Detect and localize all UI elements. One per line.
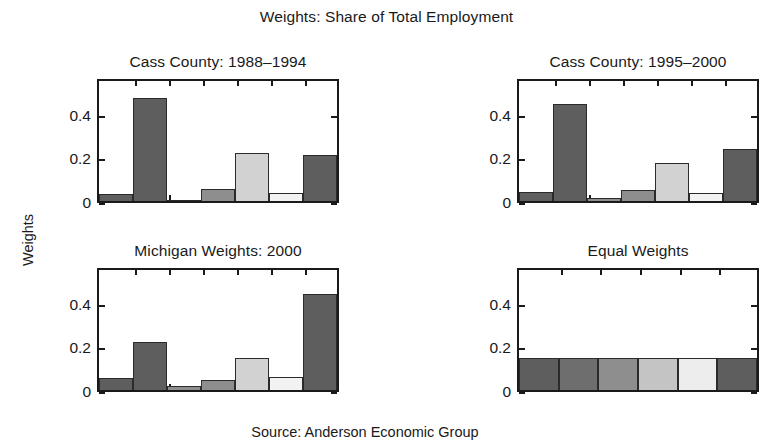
bar bbox=[269, 193, 303, 201]
bar bbox=[167, 200, 201, 201]
bar bbox=[303, 155, 337, 201]
bar bbox=[621, 190, 655, 201]
y-axis-group-label: Weights bbox=[2, 178, 24, 268]
y-axis-tick bbox=[331, 392, 337, 394]
bar bbox=[167, 386, 201, 390]
y-axis-tick-label: 0 bbox=[502, 383, 511, 401]
y-axis-tick-label: 0.4 bbox=[69, 107, 91, 125]
y-axis-tick bbox=[99, 203, 105, 205]
bar bbox=[133, 342, 167, 390]
bar bbox=[587, 198, 621, 201]
y-axis-tick bbox=[751, 203, 757, 205]
figure-canvas: Weights: Share of Total Employment Weigh… bbox=[0, 0, 773, 444]
y-axis-tick-label: 0.2 bbox=[489, 339, 511, 357]
bar-group bbox=[99, 270, 337, 390]
y-axis-tick-label: 0 bbox=[82, 194, 91, 212]
y-axis-tick-label: 0.4 bbox=[489, 296, 511, 314]
figure-title: Weights: Share of Total Employment bbox=[0, 8, 773, 26]
bar bbox=[201, 380, 235, 390]
bar bbox=[133, 98, 167, 201]
y-axis-tick bbox=[519, 203, 525, 205]
bar bbox=[559, 358, 599, 390]
bar bbox=[655, 163, 689, 201]
bar bbox=[201, 189, 235, 201]
bar bbox=[99, 378, 133, 390]
bar-group bbox=[519, 81, 757, 201]
bar bbox=[553, 104, 587, 201]
bar bbox=[235, 153, 269, 201]
y-axis-tick bbox=[331, 203, 337, 205]
subplot-cass-1988-1994: Cass County: 1988–1994 00.20.4 bbox=[97, 79, 339, 203]
y-axis-tick-label: 0.2 bbox=[69, 150, 91, 168]
subplot-michigan-2000: Michigan Weights: 2000 00.20.4 bbox=[97, 268, 339, 392]
y-axis-tick bbox=[751, 392, 757, 394]
subplot-title: Michigan Weights: 2000 bbox=[97, 242, 339, 260]
bar bbox=[235, 358, 269, 390]
bar bbox=[717, 358, 757, 390]
y-axis-tick-label: 0 bbox=[82, 383, 91, 401]
bar bbox=[598, 358, 638, 390]
subplot-title: Cass County: 1988–1994 bbox=[97, 53, 339, 71]
bar bbox=[519, 192, 553, 201]
bar-group bbox=[99, 81, 337, 201]
y-axis-tick-label: 0.2 bbox=[69, 339, 91, 357]
y-axis-tick-label: 0.2 bbox=[489, 150, 511, 168]
source-note: Source: Anderson Economic Group bbox=[0, 424, 730, 440]
y-axis-tick-label: 0 bbox=[502, 194, 511, 212]
bar bbox=[99, 194, 133, 201]
bar-group bbox=[519, 270, 757, 390]
bar bbox=[638, 358, 678, 390]
y-axis-tick bbox=[519, 392, 525, 394]
y-axis-tick-label: 0.4 bbox=[489, 107, 511, 125]
bar bbox=[678, 358, 718, 390]
subplot-title: Cass County: 1995–2000 bbox=[517, 53, 759, 71]
bar bbox=[303, 294, 337, 390]
bar bbox=[689, 193, 723, 201]
y-axis-tick bbox=[99, 392, 105, 394]
bar bbox=[269, 377, 303, 390]
subplot-equal-weights: Equal Weights 00.20.4 bbox=[517, 268, 759, 392]
bar bbox=[519, 358, 559, 390]
subplot-cass-1995-2000: Cass County: 1995–2000 00.20.4 bbox=[517, 79, 759, 203]
subplot-title: Equal Weights bbox=[517, 242, 759, 260]
y-axis-tick-label: 0.4 bbox=[69, 296, 91, 314]
y-axis-group-label-text: Weights bbox=[20, 214, 36, 266]
bar bbox=[723, 149, 757, 201]
